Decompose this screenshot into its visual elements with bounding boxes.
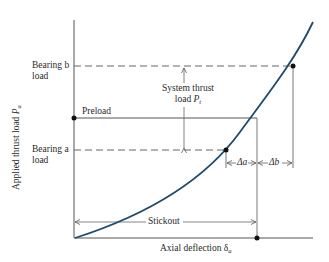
x-axis-label-text: Axial deflection [160,243,221,253]
bearing-a-label-line2: load [32,155,69,166]
system-thrust-load-text: load [175,94,191,104]
x-axis-title: Axial deflection δa [160,243,232,256]
load-deflection-curve [75,22,313,238]
stickout-label: Stickout [147,216,181,227]
bearing-b-label-line1: Bearing b [32,60,69,71]
delta-a-label: Δa [237,157,247,168]
bearing-a-point [224,148,229,153]
stickout-point [255,236,260,241]
system-thrust-label: System thrust load Pt [150,83,226,107]
y-axis-label-text: Applied thrust load [11,117,21,190]
bearing-a-label: Bearing a load [32,144,69,166]
bearing-b-label: Bearing b load [32,60,69,82]
x-axis-subscript: a [228,247,231,254]
system-thrust-subscript: t [199,98,201,105]
y-axis-subscript: a [15,105,22,108]
preload-point [72,116,77,121]
system-thrust-label-line2: load Pt [150,94,226,107]
y-axis-symbol: P [11,108,21,114]
bearing-preload-diagram: Applied thrust load Pa Bearing b load Be… [0,0,329,262]
system-thrust-label-line1: System thrust [150,83,226,94]
bearing-a-label-line1: Bearing a [32,144,69,155]
bearing-b-point [291,64,296,69]
preload-label: Preload [82,106,111,117]
y-axis-title: Applied thrust load Pa [11,105,22,190]
bearing-b-label-line2: load [32,71,69,82]
delta-b-label: Δb [269,157,279,168]
